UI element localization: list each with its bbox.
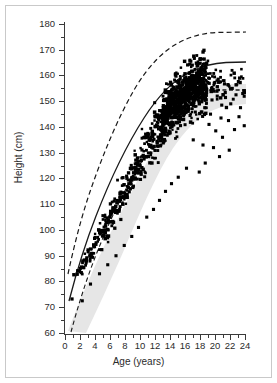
scatter-point: [183, 72, 186, 75]
scatter-point: [219, 80, 222, 83]
scatter-point: [214, 129, 217, 132]
scatter-point: [223, 82, 226, 85]
scatter-point: [116, 179, 119, 182]
y-tick-120: [59, 178, 64, 179]
y-tick-110: [59, 204, 64, 205]
scatter-point: [185, 167, 188, 170]
scatter-point: [156, 149, 159, 152]
scatter-point: [94, 233, 96, 235]
scatter-point: [119, 218, 122, 221]
x-tick-11: [148, 335, 149, 338]
scatter-point: [212, 72, 215, 75]
x-tick-21: [223, 335, 224, 338]
scatter-point: [192, 79, 195, 82]
scatter-point: [207, 123, 210, 126]
y-tick-140: [59, 127, 64, 128]
scatter-point: [113, 200, 116, 203]
scatter-point: [178, 121, 181, 124]
scatter-point: [229, 102, 232, 105]
y-tick-label-180: 180: [15, 19, 55, 29]
scatter-point: [70, 297, 73, 300]
y-tick-minor-175: [61, 37, 64, 38]
scatter-point: [127, 171, 130, 174]
scatter-point: [198, 171, 201, 174]
scatter-point: [106, 236, 109, 239]
scatter-point: [185, 76, 188, 79]
scatter-point: [152, 145, 155, 148]
scatter-point: [125, 197, 128, 200]
scatter-point: [231, 87, 234, 90]
scatter-point: [236, 83, 238, 85]
x-tick-label-24: 24: [234, 341, 256, 351]
scatter-point: [192, 138, 195, 141]
scatter-point: [100, 248, 103, 251]
scatter-point: [139, 178, 142, 181]
scatter-point: [243, 124, 246, 127]
scatter-point: [207, 72, 210, 75]
scatter-point: [92, 252, 95, 255]
scatter-point: [232, 98, 235, 101]
scatter-point: [216, 85, 219, 88]
scatter-point: [98, 272, 101, 275]
scatter-point: [108, 215, 111, 218]
scatter-point: [107, 241, 109, 243]
scatter-point: [110, 224, 113, 227]
scatter-point: [179, 103, 182, 106]
y-tick-minor-165: [61, 63, 64, 64]
scatter-point: [180, 66, 182, 68]
y-tick-150: [59, 101, 64, 102]
y-tick-80: [59, 281, 64, 282]
scatter-point: [121, 202, 125, 206]
scatter-point: [188, 71, 191, 74]
scatter-point: [196, 118, 199, 121]
scatter-point: [157, 161, 160, 164]
scatter-point: [191, 111, 193, 113]
scatter-point: [194, 75, 197, 78]
y-tick-minor-115: [61, 191, 64, 192]
scatter-point: [243, 95, 246, 98]
scatter-point: [80, 271, 83, 274]
scatter-point: [222, 79, 225, 82]
scatter-point: [151, 122, 154, 125]
scatter-point: [164, 130, 167, 133]
scatter-point: [144, 172, 147, 175]
scatter-point: [134, 169, 137, 172]
scatter-point: [154, 149, 157, 152]
scatter-point: [177, 73, 179, 75]
scatter-point: [142, 156, 144, 158]
scatter-point: [153, 101, 156, 104]
scatter-point: [89, 283, 92, 286]
scatter-point: [154, 133, 156, 135]
scatter-point: [240, 68, 243, 71]
scatter-point: [215, 69, 218, 72]
scatter-point: [228, 149, 231, 152]
y-tick-label-100: 100: [15, 225, 55, 235]
scatter-point: [152, 208, 155, 211]
y-axis-title: Height (cm): [13, 98, 24, 218]
y-tick-minor-125: [61, 166, 64, 167]
scatter-point: [141, 128, 143, 130]
y-tick-60: [59, 333, 64, 334]
scatter-point: [177, 176, 180, 179]
scatter-point: [204, 162, 207, 165]
y-tick-130: [59, 153, 64, 154]
scatter-point: [150, 151, 153, 154]
scatter-point: [201, 50, 204, 53]
scatter-point: [208, 82, 211, 85]
scatter-point: [199, 62, 202, 65]
scatter-point: [113, 227, 116, 230]
x-tick-5: [103, 335, 104, 338]
y-tick-label-160: 160: [15, 70, 55, 80]
scatter-point: [204, 99, 206, 101]
scatter-point: [187, 105, 190, 108]
figure-container: 180 170 160 150 140 130 120 110 100 90 8…: [0, 0, 277, 383]
scatter-point: [145, 149, 148, 152]
scatter-point: [164, 140, 166, 142]
scatter-point: [172, 85, 175, 88]
scatter-point: [232, 71, 235, 74]
scatter-point: [205, 102, 208, 105]
scatter-point: [72, 273, 75, 276]
scatter-point: [219, 70, 222, 73]
scatter-point: [137, 226, 140, 229]
scatter-point: [184, 123, 187, 126]
